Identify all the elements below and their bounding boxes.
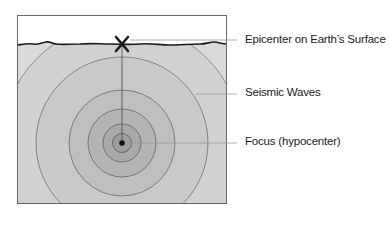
label-epicenter: Epicenter on Earth’s Surface (245, 33, 386, 45)
focus-dot (119, 140, 125, 146)
label-seismic-waves: Seismic Waves (245, 86, 321, 98)
label-focus: Focus (hypocenter) (245, 135, 340, 147)
